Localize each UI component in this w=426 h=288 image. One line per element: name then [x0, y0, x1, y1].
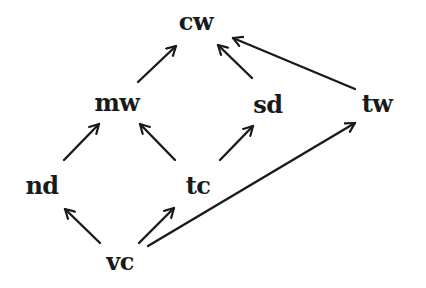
- edge-vc-to-tw: [148, 123, 355, 246]
- edge-tw-to-cw: [233, 38, 355, 89]
- node-nd: nd: [25, 174, 58, 198]
- edge-tc-to-sd: [220, 126, 253, 160]
- node-cw: cw: [179, 10, 213, 34]
- node-tc: tc: [186, 174, 211, 198]
- node-tw: tw: [362, 92, 393, 116]
- edge-nd-to-mw: [64, 124, 99, 160]
- node-mw: mw: [94, 91, 139, 115]
- node-vc: vc: [106, 250, 134, 274]
- edge-mw-to-cw: [138, 46, 176, 82]
- edges-layer: [0, 0, 426, 288]
- edge-vc-to-nd: [65, 209, 100, 243]
- dependency-diagram: cwmwsdtwndtcvc: [0, 0, 426, 288]
- node-sd: sd: [253, 93, 282, 117]
- edge-tc-to-mw: [140, 124, 175, 160]
- edge-sd-to-cw: [218, 45, 252, 78]
- edge-vc-to-tc: [139, 208, 174, 243]
